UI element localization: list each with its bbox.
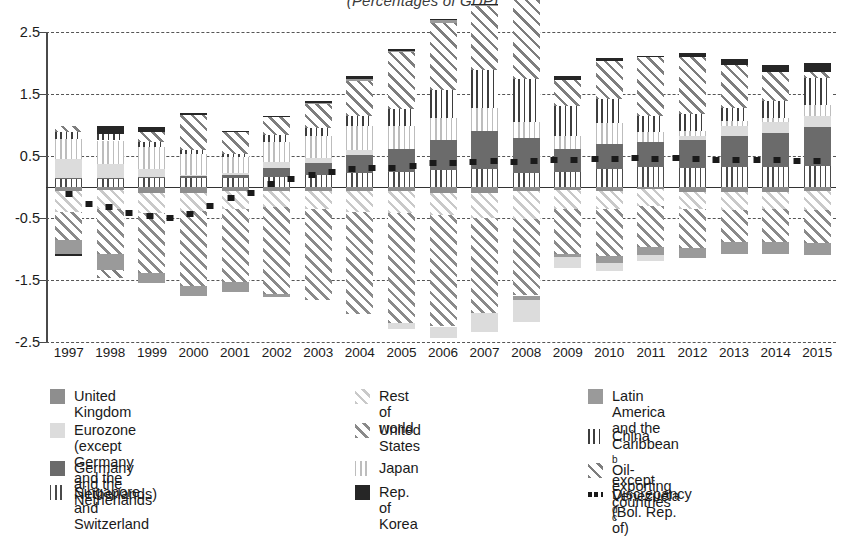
x-axis-tick-label: 2012 (677, 345, 707, 360)
bar-column[interactable] (513, 32, 540, 342)
legend-item[interactable]: United Kingdom (50, 388, 131, 420)
bar-column[interactable] (388, 32, 415, 342)
bar-column[interactable] (762, 32, 789, 342)
bar-segment (430, 170, 457, 187)
bar-segment (55, 159, 82, 178)
bar-column[interactable] (97, 32, 124, 342)
bar-segment (97, 141, 124, 165)
legend-item[interactable]: Singapore and Switzerland (50, 484, 149, 532)
bar-column[interactable] (138, 32, 165, 342)
x-axis-tick-label: 2011 (636, 345, 665, 360)
bar-segment (180, 176, 207, 178)
bar-column[interactable] (263, 32, 290, 342)
discrepancy-marker (510, 159, 517, 165)
bar-column[interactable] (305, 32, 332, 342)
bar-segment (679, 209, 706, 247)
bar-segment (596, 99, 623, 123)
bar-segment (180, 178, 207, 187)
bar-segment (471, 108, 498, 131)
discrepancy-marker (531, 158, 538, 164)
legend-swatch-latin-america (588, 389, 603, 404)
bar-segment (138, 193, 165, 213)
bar-segment (804, 116, 831, 127)
bar-column[interactable] (804, 32, 831, 342)
bar-segment (721, 167, 748, 187)
y-axis-tick (38, 32, 46, 33)
bar-column[interactable] (679, 32, 706, 342)
bar-segment (55, 240, 82, 254)
legend-item[interactable]: Japan (355, 460, 419, 476)
bar-segment (138, 169, 165, 177)
discrepancy-marker (268, 181, 275, 187)
bar-segment (430, 118, 457, 140)
discrepancy-marker (65, 191, 72, 197)
discrepancy-marker (348, 166, 355, 172)
legend-item[interactable]: Rep. of Korea (355, 484, 418, 532)
x-axis-tick-label: 2015 (802, 345, 832, 360)
bar-column[interactable] (721, 32, 748, 342)
discrepancy-marker (692, 156, 699, 162)
bar-column[interactable] (430, 32, 457, 342)
bar-column[interactable] (180, 32, 207, 342)
discrepancy-marker (652, 156, 659, 162)
bar-segment (596, 191, 623, 210)
bar-segment (388, 51, 415, 53)
bar-column[interactable] (554, 32, 581, 342)
bar-segment (263, 162, 290, 168)
bar-segment (180, 154, 207, 174)
bar-column[interactable] (55, 32, 82, 342)
x-axis-tick-label: 2000 (178, 345, 208, 360)
discrepancy-marker (328, 169, 335, 175)
bar-segment (471, 218, 498, 313)
bar-segment (679, 140, 706, 169)
bar-segment (430, 327, 457, 339)
page-title: (Percentages of GDP) (0, 0, 845, 9)
bar-segment (471, 313, 498, 332)
bar-segment (471, 6, 498, 70)
bar-segment (637, 56, 664, 58)
bar-segment (388, 52, 415, 108)
bar-segment (804, 63, 831, 72)
legend-item[interactable]: China (588, 428, 650, 444)
bar-segment (97, 178, 124, 179)
bar-segment (388, 109, 415, 126)
bar-column[interactable] (596, 32, 623, 342)
bar-segment (596, 209, 623, 256)
bar-segment (222, 154, 249, 158)
bar-segment (679, 114, 706, 130)
bar-segment (679, 192, 706, 209)
bar-segment (430, 19, 457, 20)
bar-segment (138, 177, 165, 178)
bar-segment (388, 126, 415, 148)
bar-column[interactable] (222, 32, 249, 342)
legend-item[interactable]: United States (355, 422, 421, 454)
discrepancy-marker (308, 172, 315, 178)
bar-segment (305, 191, 332, 209)
bar-segment (138, 147, 165, 169)
y-axis-tick (38, 94, 46, 95)
discrepancy-marker (288, 176, 295, 182)
bar-segment (430, 193, 457, 215)
bar-segment (263, 116, 290, 117)
bar-segment (55, 179, 82, 187)
x-axis-tick-label: 2008 (511, 345, 541, 360)
legend-item[interactable]: Discrepancy d (588, 486, 692, 522)
discrepancy-marker (389, 165, 396, 171)
bar-segment (679, 57, 706, 115)
discrepancy-marker (632, 155, 639, 161)
bar-segment (180, 286, 207, 296)
bar-column[interactable] (346, 32, 373, 342)
bar-segment (513, 219, 540, 295)
bar-segment (222, 131, 249, 132)
legend-item-label: Singapore and Switzerland (74, 484, 149, 532)
bar-segment (554, 209, 581, 254)
bar-column[interactable] (471, 32, 498, 342)
bar-column[interactable] (637, 32, 664, 342)
bar-segment (721, 210, 748, 242)
bar-segment (637, 247, 664, 256)
y-axis-tick-label: 1.5 (0, 86, 40, 102)
discrepancy-marker (429, 160, 436, 166)
bar-segment (388, 191, 415, 213)
bar-segment (554, 80, 581, 107)
y-axis-tick (38, 156, 46, 157)
